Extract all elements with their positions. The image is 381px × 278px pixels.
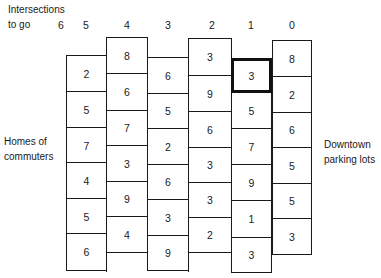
block-col5-row5: 5 bbox=[66, 198, 107, 235]
block-col5-row3: 7 bbox=[66, 127, 107, 164]
block-col4-row6: 4 bbox=[106, 216, 148, 253]
block-col5-row4: 4 bbox=[66, 162, 107, 199]
block-col1-row3: 7 bbox=[231, 128, 272, 165]
block-col2-row3: 6 bbox=[188, 111, 232, 148]
downtown-label-line1: Downtown bbox=[324, 139, 371, 151]
column-header-0: 0 bbox=[285, 19, 299, 31]
block-col1-row2: 5 bbox=[231, 92, 272, 129]
column-header-6: 6 bbox=[54, 19, 68, 31]
block-col3-row3: 2 bbox=[147, 128, 189, 165]
block-col0-row1: 8 bbox=[272, 40, 312, 77]
intersections-label-line1: Intersections bbox=[8, 4, 65, 16]
col4-bottom-edge bbox=[106, 252, 107, 272]
block-col0-row5: 5 bbox=[272, 183, 312, 219]
block-col4-row3: 7 bbox=[106, 110, 148, 146]
block-col1-row5: 1 bbox=[231, 200, 272, 238]
block-col2-row6: 2 bbox=[188, 217, 232, 253]
block-col3-row5: 3 bbox=[147, 199, 189, 236]
block-col2-row5: 3 bbox=[188, 182, 232, 218]
column-header-4: 4 bbox=[120, 19, 134, 31]
column-header-1: 1 bbox=[244, 19, 258, 31]
block-col0-row6: 3 bbox=[272, 218, 312, 255]
column-header-3: 3 bbox=[161, 19, 175, 31]
block-col4-row1: 8 bbox=[106, 37, 148, 74]
block-col2-row1: 3 bbox=[188, 38, 232, 76]
block-col5-row2: 5 bbox=[66, 91, 107, 128]
block-col4-row2: 6 bbox=[106, 73, 148, 111]
column-header-5: 5 bbox=[79, 19, 93, 31]
block-col3-row6: 9 bbox=[147, 235, 189, 271]
block-col3-row2: 5 bbox=[147, 93, 189, 129]
column-header-2: 2 bbox=[205, 19, 219, 31]
downtown-label-line2: parking lots bbox=[324, 154, 375, 166]
block-col2-row4: 3 bbox=[188, 147, 232, 183]
block-col3-row4: 6 bbox=[147, 164, 189, 200]
block-col0-row3: 6 bbox=[272, 112, 312, 148]
homes-label-line1: Homes of bbox=[4, 136, 47, 148]
intersections-label-line2: to go bbox=[8, 19, 30, 31]
homes-label-line2: commuters bbox=[4, 151, 53, 163]
block-col5-row6: 6 bbox=[66, 233, 107, 271]
block-col0-row2: 2 bbox=[272, 76, 312, 113]
block-col4-row5: 9 bbox=[106, 181, 148, 217]
block-col5-row1: 2 bbox=[66, 55, 107, 93]
block-col1-row1-highlighted: 3 bbox=[231, 58, 272, 93]
block-col4-row4: 3 bbox=[106, 145, 148, 182]
block-col3-row1: 6 bbox=[147, 57, 189, 94]
block-col1-row4: 9 bbox=[231, 164, 272, 201]
block-col2-row2: 9 bbox=[188, 75, 232, 112]
block-col0-row4: 5 bbox=[272, 147, 312, 184]
block-col1-row6: 3 bbox=[231, 237, 272, 273]
col2-bottom-edge bbox=[188, 252, 189, 272]
